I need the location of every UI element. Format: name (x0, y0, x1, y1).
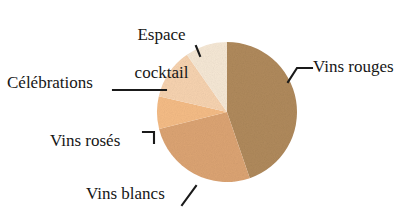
pie-label-espace-cocktail-line2: cocktail (135, 63, 189, 82)
pie-label-vins-rouges: Vins rouges (313, 57, 394, 76)
pie-label-celebrations: Célébrations (7, 73, 93, 92)
pie-label-vins-roses: Vins rosés (50, 131, 120, 150)
leader-line-vins-roses (143, 132, 154, 143)
pie-chart-figure: Espace cocktail Célébrations Vins rosés … (0, 0, 415, 208)
leader-line-vins-blancs (182, 186, 196, 205)
pie-label-vins-blancs: Vins blancs (86, 184, 165, 203)
pie-label-espace-cocktail: Espace cocktail (105, 6, 201, 101)
pie-chart-canvas (0, 0, 415, 208)
leader-line-vins-rouges (288, 68, 312, 82)
pie-label-espace-cocktail-line1: Espace (137, 25, 185, 44)
